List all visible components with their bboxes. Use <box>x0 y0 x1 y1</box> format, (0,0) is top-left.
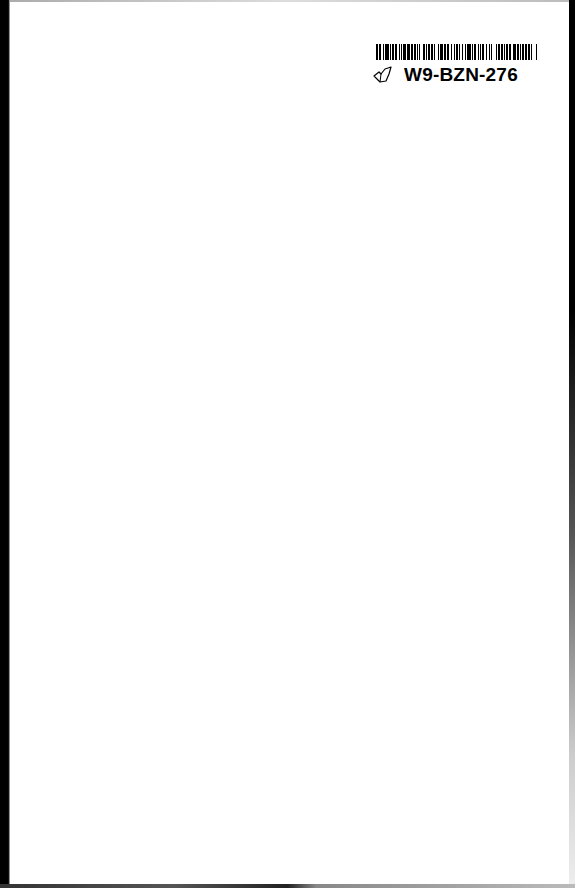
barcode-id-text: W9-BZN-276 <box>404 64 518 86</box>
page-edge-bottom <box>0 884 575 888</box>
scanned-page: W9-BZN-276 <box>0 0 575 888</box>
barcode <box>376 44 538 60</box>
barcode-caption: W9-BZN-276 <box>372 64 518 86</box>
leaf-outline-icon <box>372 66 394 84</box>
library-barcode-label: W9-BZN-276 <box>372 44 567 94</box>
page-edge-top <box>0 0 575 2</box>
page-edge-right <box>569 0 575 888</box>
page-edge-left <box>0 0 10 888</box>
barcode-space <box>537 44 538 60</box>
